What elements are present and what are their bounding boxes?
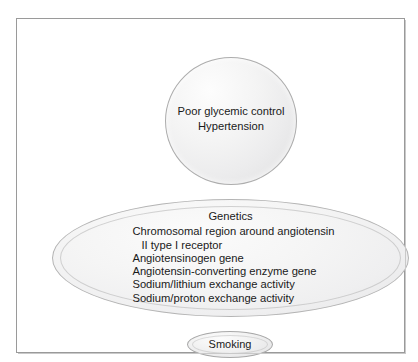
genetics-list-item: II type I receptor [132, 239, 334, 252]
genetics-content: Genetics Chromosomal region around angio… [53, 209, 408, 305]
risk-factor-line-1: Poor glycemic control [178, 104, 285, 119]
risk-factors-text-block: Poor glycemic control Hypertension [178, 104, 285, 134]
genetics-title: Genetics [53, 209, 408, 223]
risk-factor-line-2: Hypertension [178, 119, 285, 134]
figure-frame: Poor glycemic control Hypertension Genet… [16, 18, 405, 353]
genetics-list-item: Angiotensin-converting enzyme gene [132, 265, 334, 278]
genetics-list: Chromosomal region around angiotensin II… [132, 225, 334, 304]
genetics-list-item: Chromosomal region around angiotensin [132, 225, 334, 238]
genetics-list-item: Sodium/lithium exchange activity [132, 278, 334, 291]
smoking-ellipse: Smoking [187, 331, 273, 358]
smoking-label: Smoking [209, 338, 252, 351]
genetics-list-item: Sodium/proton exchange activity [132, 292, 334, 305]
figure-root: Poor glycemic control Hypertension Genet… [0, 0, 418, 362]
risk-factors-circle: Poor glycemic control Hypertension [165, 57, 297, 185]
genetics-ellipse: Genetics Chromosomal region around angio… [52, 199, 409, 317]
genetics-list-item: Angiotensinogen gene [132, 252, 334, 265]
